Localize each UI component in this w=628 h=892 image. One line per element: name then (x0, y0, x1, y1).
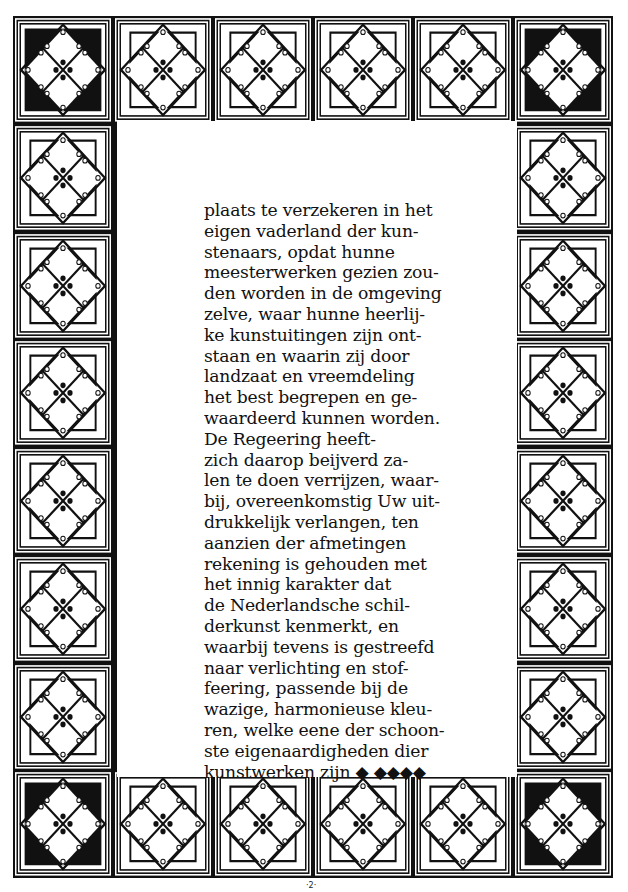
border-tile (213, 770, 313, 878)
text-line: rekening is gehouden met (204, 554, 440, 575)
text-line: ste eigenaardigheden dier (204, 741, 440, 762)
text-line: waardeerd kunnen worden. (204, 408, 440, 429)
border-tile (13, 232, 113, 340)
border-tile (513, 339, 613, 447)
text-line: landzaat en vreemdeling (204, 366, 440, 387)
border-tile (513, 555, 613, 663)
text-line: De Regeering heeft- (204, 429, 440, 450)
text-line: staan en waarin zij door (204, 346, 440, 367)
text-line: de Nederlandsche schil- (204, 595, 440, 616)
text-line: den worden in de omgeving (204, 283, 440, 304)
corner-tile (513, 770, 613, 878)
corner-tile (13, 770, 113, 878)
border-tile (13, 663, 113, 771)
border-tile (313, 770, 413, 878)
text-line: waarbij tevens is gestreefd (204, 637, 440, 658)
border-tile (513, 124, 613, 232)
text-line: ren, welke eene der schoon- (204, 720, 440, 741)
text-line: aanzien der afmetingen (204, 533, 440, 554)
text-line: zich daarop beijverd za- (204, 450, 440, 471)
border-tile (413, 16, 513, 124)
calligraphy-text: plaats te verzekeren in heteigen vaderla… (204, 200, 440, 782)
text-line: stenaars, opdat hunne (204, 242, 440, 263)
border-tile (513, 447, 613, 555)
text-line: eigen vaderland der kun- (204, 221, 440, 242)
text-line: plaats te verzekeren in het (204, 200, 440, 221)
border-tile (13, 339, 113, 447)
border-tile (513, 232, 613, 340)
border-tile (13, 447, 113, 555)
text-line: meesterwerken gezien zou- (204, 262, 440, 283)
text-line: naar verlichting en stof- (204, 658, 440, 679)
text-line: zelve, waar hunne heerlij- (204, 304, 440, 325)
border-tile (113, 16, 213, 124)
text-line: kunstwerken zijn ◆ ◆◆◆◆ (204, 762, 440, 783)
corner-tile (513, 16, 613, 124)
corner-tile (13, 16, 113, 124)
text-line: wazige, harmonieuse kleu- (204, 699, 440, 720)
border-tile (13, 555, 113, 663)
text-line: het best begrepen en ge- (204, 387, 440, 408)
border-tile (313, 16, 413, 124)
border-tile (513, 663, 613, 771)
text-line: len te doen verrijzen, waar- (204, 470, 440, 491)
text-line: derkunst kenmerkt, en (204, 616, 440, 637)
border-tile (213, 16, 313, 124)
border-tile (13, 124, 113, 232)
text-line: ke kunstuitingen zijn ont- (204, 325, 440, 346)
border-tile (113, 770, 213, 878)
text-line: bij, overeenkomstig Uw uit- (204, 491, 440, 512)
page-number: ·2· (306, 881, 316, 890)
border-tile (413, 770, 513, 878)
text-line: drukkelijk verlangen, ten (204, 512, 440, 533)
text-line: het innig karakter dat (204, 574, 440, 595)
text-line: feering, passende bij de (204, 678, 440, 699)
